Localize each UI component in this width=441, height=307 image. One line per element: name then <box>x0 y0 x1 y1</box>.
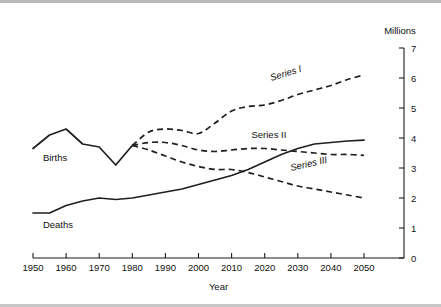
x-tick-label: 2010 <box>221 262 242 273</box>
series-line-series-i <box>132 75 364 146</box>
x-tick-label: 2050 <box>353 262 374 273</box>
series-layer <box>33 75 364 213</box>
y-tick-label: 2 <box>411 193 416 204</box>
x-tick-label: 1990 <box>155 262 176 273</box>
y-tick-label: 6 <box>411 73 416 84</box>
x-tick-label: 2020 <box>254 262 275 273</box>
y-tick-label: 1 <box>411 223 416 234</box>
y-tick-label: 4 <box>411 133 416 144</box>
x-tick-label: 1960 <box>56 262 77 273</box>
x-tick-label: 1980 <box>122 262 143 273</box>
series-label-births: Births <box>43 152 68 163</box>
series-label-series-i: Series I <box>269 63 303 83</box>
x-tick-label: 2030 <box>287 262 308 273</box>
y-tick-label: 3 <box>411 163 416 174</box>
series-label-series-ii: Series II <box>251 129 286 140</box>
series-label-series-iii: Series III <box>289 154 328 173</box>
y-tick-label: 5 <box>411 103 416 114</box>
series-line-deaths <box>33 140 364 213</box>
series-label-deaths: Deaths <box>43 219 73 230</box>
x-tick-label: 1950 <box>22 262 43 273</box>
top-divider-rule <box>0 0 441 3</box>
population-projection-chart: 1950196019701980199020002010202020302040… <box>0 0 441 307</box>
series-line-series-iii <box>132 146 364 199</box>
y-tick-label: 0 <box>411 253 416 264</box>
x-tick-label: 2000 <box>188 262 209 273</box>
y-axis-unit-title: Millions <box>384 25 416 36</box>
series-line-series-ii <box>132 142 364 155</box>
x-tick-label: 2040 <box>320 262 341 273</box>
axes-layer: 1950196019701980199020002010202020302040… <box>22 25 416 292</box>
chart-canvas: 1950196019701980199020002010202020302040… <box>0 0 441 307</box>
y-tick-label: 7 <box>411 43 416 54</box>
x-axis-title: Year <box>209 281 228 292</box>
x-tick-label: 1970 <box>89 262 110 273</box>
